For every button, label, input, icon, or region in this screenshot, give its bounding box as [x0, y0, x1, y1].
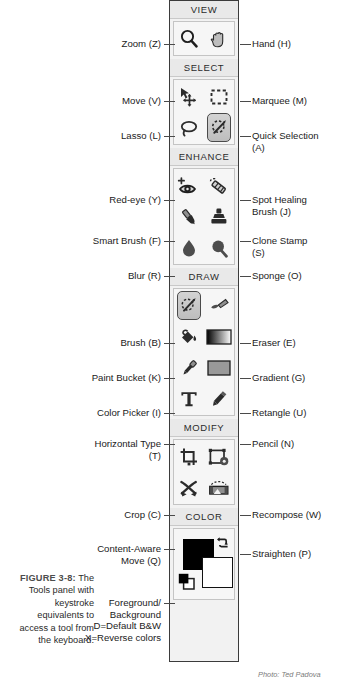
tool-spot-healing-brush[interactable] — [204, 170, 234, 201]
label-rectangle: Retangle (U) — [252, 407, 306, 419]
leader-dash-move — [164, 101, 175, 102]
tool-paint-bucket[interactable] — [174, 321, 204, 352]
leader-dash-marquee — [240, 101, 251, 102]
tool-content-aware-move[interactable] — [174, 472, 204, 503]
leader-dash-red-eye — [164, 200, 175, 201]
label-blur: Blur (R) — [128, 270, 161, 282]
tool-crop[interactable] — [174, 441, 204, 472]
leader-dash-color-note — [164, 603, 175, 604]
tool-gradient[interactable] — [204, 321, 234, 352]
label-recompose: Recompose (W) — [252, 509, 321, 521]
eraser-icon — [208, 295, 230, 317]
figure-number: FIGURE 3-8: — [20, 573, 76, 583]
straighten-icon — [207, 477, 231, 499]
paint-bucket-icon — [178, 326, 200, 348]
tool-recompose[interactable] — [204, 441, 234, 472]
label-marquee: Marquee (M) — [252, 95, 307, 107]
gradient-icon — [206, 328, 232, 346]
tool-row — [174, 23, 234, 54]
label-sponge: Sponge (O) — [252, 270, 302, 282]
group-header-modify: MODIFY — [170, 419, 238, 437]
smart-brush-icon — [178, 206, 200, 228]
group-body-view — [173, 21, 235, 56]
blur-droplet-icon — [178, 237, 200, 259]
leader-dash-horizontal-type — [164, 444, 175, 445]
leader-dash-zoom — [164, 44, 175, 45]
tool-row — [174, 321, 234, 352]
group-body-modify — [173, 439, 235, 505]
tool-straighten[interactable] — [204, 472, 234, 503]
leader-dash-recompose — [240, 515, 251, 516]
group-header-view: VIEW — [170, 1, 238, 19]
tool-brush[interactable] — [174, 290, 204, 321]
recompose-icon — [207, 446, 231, 468]
rectangle-icon — [207, 359, 231, 377]
marquee-icon — [208, 86, 230, 108]
tool-hand[interactable] — [204, 23, 234, 54]
tool-row — [174, 170, 234, 201]
tool-quick-selection[interactable] — [204, 112, 234, 143]
default-colors-icon[interactable] — [178, 573, 196, 591]
leader-dash-color-picker — [164, 413, 175, 414]
tool-smart-brush[interactable] — [174, 201, 204, 232]
label-clone-stamp: Clone Stamp (S) — [252, 235, 307, 258]
group-header-enhance: ENHANCE — [170, 148, 238, 166]
tool-red-eye[interactable] — [174, 170, 204, 201]
tool-zoom[interactable] — [174, 23, 204, 54]
leader-dash-blur — [164, 276, 175, 277]
group-header-draw: DRAW — [170, 268, 238, 286]
tool-rectangle[interactable] — [204, 352, 234, 383]
lasso-icon — [178, 117, 200, 139]
crop-icon — [178, 446, 200, 468]
photo-credit: Photo: Ted Padova — [258, 670, 321, 679]
label-lasso: Lasso (L) — [121, 130, 161, 142]
tool-color-picker[interactable] — [174, 352, 204, 383]
tool-marquee[interactable] — [204, 81, 234, 112]
tool-horizontal-type[interactable] — [174, 383, 204, 414]
tool-eraser[interactable] — [204, 290, 234, 321]
leader-dash-smart-brush — [164, 241, 175, 242]
leader-dash-content-aware-move — [164, 549, 175, 550]
tool-sponge[interactable] — [204, 232, 234, 263]
leader-dash-crop — [164, 515, 175, 516]
hand-icon — [208, 28, 230, 50]
tool-clone-stamp[interactable] — [204, 201, 234, 232]
swap-colors-icon[interactable] — [216, 535, 230, 549]
quick-selection-icon — [208, 117, 230, 139]
tools-panel: VIEW SELECT — [169, 0, 239, 662]
label-red-eye: Red-eye (Y) — [109, 194, 161, 206]
type-icon — [178, 388, 200, 410]
tool-row — [174, 472, 234, 503]
tool-row — [174, 441, 234, 472]
eyedropper-icon — [178, 357, 200, 379]
tool-row — [174, 112, 234, 143]
leader-dash-quick-selection — [240, 136, 251, 137]
figure-caption-text: The Tools panel with keystroke equivalen… — [19, 573, 94, 645]
tool-row — [174, 81, 234, 112]
label-straighten: Straighten (P) — [252, 548, 311, 560]
label-gradient: Gradient (G) — [252, 372, 305, 384]
group-header-select: SELECT — [170, 59, 238, 77]
group-body-color — [173, 528, 235, 600]
tool-lasso[interactable] — [174, 112, 204, 143]
tool-pencil[interactable] — [204, 383, 234, 414]
tool-row — [174, 290, 234, 321]
label-paint-bucket: Paint Bucket (K) — [92, 372, 161, 384]
leader-dash-paint-bucket — [164, 378, 175, 379]
move-icon — [178, 86, 200, 108]
label-color-picker: Color Picker (I) — [97, 407, 161, 419]
background-color-swatch[interactable] — [202, 557, 233, 588]
leader-dash-lasso — [164, 136, 175, 137]
tool-blur[interactable] — [174, 232, 204, 263]
leader-dash-sponge — [240, 276, 251, 277]
magnifier-icon — [178, 28, 200, 50]
label-brush: Brush (B) — [120, 337, 161, 349]
content-aware-move-icon — [178, 477, 200, 499]
label-quick-selection: Quick Selection (A) — [252, 130, 319, 153]
leader-dash-eraser — [240, 343, 251, 344]
red-eye-icon — [177, 175, 201, 197]
pencil-icon — [208, 388, 230, 410]
leader-dash-clone-stamp — [240, 241, 251, 242]
tool-move[interactable] — [174, 81, 204, 112]
label-smart-brush: Smart Brush (F) — [93, 235, 161, 247]
